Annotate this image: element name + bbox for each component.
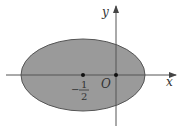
origin-point	[114, 73, 118, 77]
fraction-numerator: 1	[81, 79, 87, 90]
fraction-denominator: 2	[81, 91, 87, 102]
diagram-canvas: y x O − 1 2	[0, 0, 185, 137]
x-axis-label: x	[166, 75, 173, 89]
y-axis-label: y	[101, 5, 109, 19]
center-point	[81, 73, 85, 77]
origin-label: O	[101, 77, 111, 91]
fraction-sign: −	[71, 84, 79, 95]
